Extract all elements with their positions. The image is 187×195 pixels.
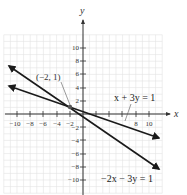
svg-text:8: 8 bbox=[76, 57, 80, 65]
svg-text:−4: −4 bbox=[72, 137, 80, 145]
coordinate-plane-chart: x y −10 −8 −6 −4 −2 8 10 10 8 bbox=[0, 0, 187, 195]
point-leader-line bbox=[61, 82, 70, 105]
equation-label-line2: −2x − 3y = 1 bbox=[101, 173, 153, 184]
svg-text:6: 6 bbox=[76, 70, 80, 78]
line1-leader-line bbox=[125, 104, 131, 121]
x-axis-label: x bbox=[173, 108, 179, 119]
svg-text:10: 10 bbox=[146, 120, 154, 128]
svg-text:2: 2 bbox=[76, 97, 80, 105]
equation-label-line1: x + 3y = 1 bbox=[114, 92, 155, 103]
svg-text:−6: −6 bbox=[72, 150, 80, 158]
svg-text:−10: −10 bbox=[68, 176, 79, 184]
svg-text:−10: −10 bbox=[10, 120, 21, 128]
intersection-point-label: (−2, 1) bbox=[36, 72, 61, 82]
svg-text:−8: −8 bbox=[26, 120, 34, 128]
y-axis-label: y bbox=[79, 5, 85, 16]
svg-text:10: 10 bbox=[72, 44, 80, 52]
intersection-point-marker bbox=[68, 105, 72, 109]
svg-text:−8: −8 bbox=[72, 163, 80, 171]
svg-text:−4: −4 bbox=[53, 120, 61, 128]
svg-text:8: 8 bbox=[134, 120, 138, 128]
svg-text:4: 4 bbox=[76, 84, 80, 92]
svg-text:−6: −6 bbox=[39, 120, 47, 128]
svg-text:−2: −2 bbox=[72, 124, 80, 132]
